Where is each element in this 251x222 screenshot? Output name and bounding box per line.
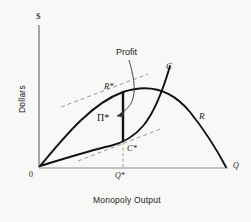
y-axis-title: Dollars <box>18 85 27 113</box>
profit-callout-label: Profit <box>116 48 137 57</box>
tangent-line-at-cost-optimum <box>78 128 163 161</box>
plot-canvas <box>0 0 251 222</box>
revenue-optimum-point-label: R* <box>104 82 113 91</box>
cost-curve-label: C <box>166 62 172 71</box>
revenue-curve-label: R <box>199 112 205 121</box>
economics-figure: $ Dollars 0 Q* Q Monopoly Output C R R* … <box>0 0 251 222</box>
revenue-curve <box>40 88 226 167</box>
optimum-output-tick-label: Q* <box>115 172 125 180</box>
origin-label: 0 <box>29 171 33 179</box>
y-axis-currency-symbol: $ <box>36 12 41 21</box>
x-axis-end-label: Q <box>233 162 239 170</box>
profit-callout-arrowhead <box>117 111 124 117</box>
profit-gap-label: Π* <box>97 113 109 123</box>
x-axis-title: Monopoly Output <box>93 196 161 205</box>
cost-optimum-point-label: C* <box>127 144 137 153</box>
